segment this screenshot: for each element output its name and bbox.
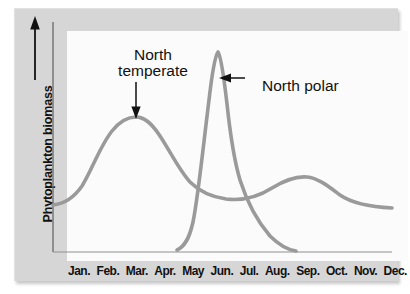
- annotation-arrow-north-temperate: [131, 82, 140, 119]
- series-line-north-polar: [177, 52, 296, 251]
- chart-canvas: [0, 0, 410, 294]
- phytoplankton-biomass-figure: Phytoplankton biomass Jan. Feb. Mar. Apr…: [0, 0, 410, 294]
- series-line-north-temperate: [53, 117, 392, 208]
- up-arrow-icon: [30, 16, 40, 80]
